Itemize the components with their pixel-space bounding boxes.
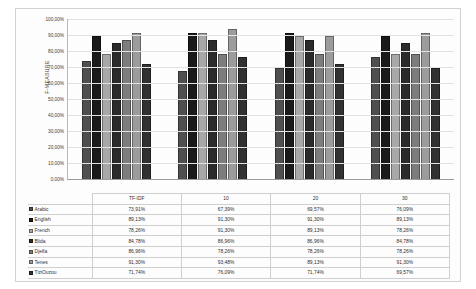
table-body: Arabic73,91%67,39%69,57%76,09%English89,… xyxy=(28,204,450,278)
y-tick-label: 50,00% xyxy=(28,97,64,102)
bar-english-10 xyxy=(188,33,197,179)
bar-blida-tf-idf xyxy=(112,43,121,179)
y-tick-label: 80,00% xyxy=(28,49,64,54)
bar-french-tf-idf xyxy=(102,54,111,179)
gridline xyxy=(68,67,454,68)
table-cell-value: 86,96% xyxy=(92,246,181,257)
gridline xyxy=(68,131,454,132)
table-cell-value: 89,13% xyxy=(92,215,181,226)
table-cell-value: 89,13% xyxy=(271,257,360,268)
table-cell-value: 67,39% xyxy=(181,204,270,215)
legend-swatch-icon xyxy=(29,271,33,275)
legend-label: Arabic xyxy=(35,207,49,212)
table-cell-value: 91,30% xyxy=(271,215,360,226)
y-tick-label: 0,00% xyxy=(28,177,64,182)
table-cell-value: 69,57% xyxy=(271,204,360,215)
table-cell-value: 84,78% xyxy=(92,236,181,247)
gridline xyxy=(68,147,454,148)
bar-tiziouzou-20 xyxy=(335,64,344,179)
y-tick-label: 60,00% xyxy=(28,81,64,86)
y-axis-tick-labels: 0,00%10,00%20,00%30,00%40,00%50,00%60,00… xyxy=(28,19,64,179)
bar-french-30 xyxy=(391,54,400,179)
table-cell-value: 93,48% xyxy=(181,257,270,268)
legend-label: Tenes xyxy=(35,260,48,265)
bar-blida-10 xyxy=(208,40,217,179)
y-tick-label: 20,00% xyxy=(28,145,64,150)
table-row: Arabic73,91%67,39%69,57%76,09% xyxy=(28,204,450,215)
bar-arabic-tf-idf xyxy=(82,61,91,179)
table-cell-value: 91,30% xyxy=(92,257,181,268)
bar-tiziouzou-10 xyxy=(238,57,247,179)
legend-label: TiziOuzou xyxy=(35,271,57,276)
plot-grid xyxy=(67,19,454,180)
bar-blida-20 xyxy=(305,40,314,179)
table-col-header: 20 xyxy=(271,194,360,205)
table-cell-value: 84,78% xyxy=(360,236,449,247)
table-cell-value: 78,26% xyxy=(360,246,449,257)
bar-tiziouzou-tf-idf xyxy=(142,64,151,179)
gridline xyxy=(68,83,454,84)
gridline xyxy=(68,115,454,116)
bar-tenes-tf-idf xyxy=(132,33,141,179)
bar-djelfa-tf-idf xyxy=(122,40,131,179)
table-cell-value: 78,26% xyxy=(92,225,181,236)
table-col-header: TF-IDF xyxy=(92,194,181,205)
legend-entry-french: French xyxy=(28,225,92,236)
legend-label: French xyxy=(35,228,50,233)
legend-entry-arabic: Arabic xyxy=(28,204,92,215)
gridline xyxy=(68,19,454,20)
y-tick-label: 30,00% xyxy=(28,129,64,134)
table-cell-value: 78,26% xyxy=(181,246,270,257)
data-table: TF-IDF102030 Arabic73,91%67,39%69,57%76,… xyxy=(28,193,450,279)
legend-entry-blida: Blida xyxy=(28,236,92,247)
table-cell-value: 91,30% xyxy=(360,257,449,268)
gridline xyxy=(68,35,454,36)
table-header-row: TF-IDF102030 xyxy=(28,194,450,205)
bar-french-10 xyxy=(198,33,207,179)
table-row: Blida84,78%86,96%86,96%84,78% xyxy=(28,236,450,247)
table-cell-value: 76,09% xyxy=(181,268,270,279)
legend-label: Djelfa xyxy=(35,249,48,254)
legend-swatch-icon xyxy=(29,250,33,254)
table-col-header: 10 xyxy=(181,194,270,205)
chart-figure: F-MEASURE 0,00%10,00%20,00%30,00%40,00%5… xyxy=(15,8,461,282)
bar-english-tf-idf xyxy=(92,36,101,179)
bar-french-20 xyxy=(295,36,304,179)
table-cell-value: 91,30% xyxy=(181,215,270,226)
table-cell-value: 71,74% xyxy=(271,268,360,279)
bar-tenes-30 xyxy=(421,33,430,179)
gridline xyxy=(68,99,454,100)
legend-swatch-icon xyxy=(29,207,33,211)
y-tick-label: 70,00% xyxy=(28,65,64,70)
bar-djelfa-10 xyxy=(218,54,227,179)
legend-label: English xyxy=(35,218,51,223)
legend-entry-english: English xyxy=(28,215,92,226)
legend-entry-tenes: Tenes xyxy=(28,257,92,268)
bar-djelfa-30 xyxy=(411,54,420,179)
legend-swatch-icon xyxy=(29,260,33,264)
plot-area: F-MEASURE 0,00%10,00%20,00%30,00%40,00%5… xyxy=(16,9,462,191)
bar-djelfa-20 xyxy=(315,54,324,179)
table-row: English89,13%91,30%91,30%89,13% xyxy=(28,215,450,226)
table-cell-value: 73,91% xyxy=(92,204,181,215)
legend-label: Blida xyxy=(35,239,46,244)
y-tick-label: 90,00% xyxy=(28,33,64,38)
table-cell-value: 71,74% xyxy=(92,268,181,279)
legend-entry-djelfa: Djelfa xyxy=(28,246,92,257)
legend-swatch-icon xyxy=(29,239,33,243)
gridline xyxy=(68,51,454,52)
table-row: French78,26%91,30%89,13%78,26% xyxy=(28,225,450,236)
bar-blida-30 xyxy=(401,43,410,179)
table-row: Djelfa86,96%78,26%78,26%78,26% xyxy=(28,246,450,257)
bar-tenes-20 xyxy=(325,36,334,179)
y-tick-label: 10,00% xyxy=(28,161,64,166)
table-cell-value: 78,26% xyxy=(271,246,360,257)
y-tick-label: 40,00% xyxy=(28,113,64,118)
bar-english-20 xyxy=(285,33,294,179)
legend-entry-tiziouzou: TiziOuzou xyxy=(28,268,92,279)
table-cell-value: 89,13% xyxy=(360,215,449,226)
y-tick-label: 100,00% xyxy=(28,17,64,22)
table-cell-value: 69,57% xyxy=(360,268,449,279)
legend-swatch-icon xyxy=(29,218,33,222)
table-cell-value: 78,26% xyxy=(360,225,449,236)
